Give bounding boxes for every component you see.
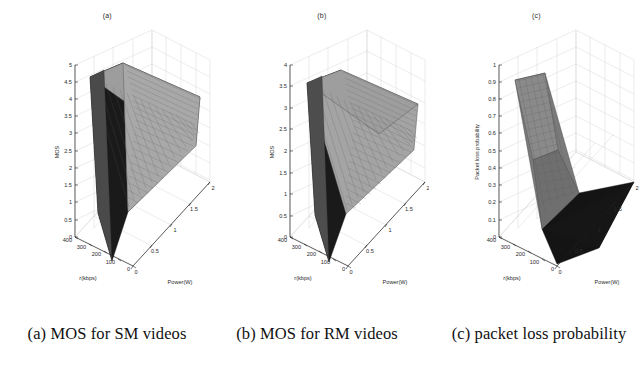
svg-text:400: 400 <box>63 237 72 243</box>
svg-text:0.7: 0.7 <box>488 113 496 119</box>
svg-text:1: 1 <box>493 62 496 68</box>
panel-b-xlabel: r(kbps) <box>294 275 311 281</box>
caption-b: (b) MOS for RM videos <box>212 300 422 344</box>
svg-text:0.8: 0.8 <box>488 96 496 102</box>
svg-text:0.3: 0.3 <box>488 182 496 188</box>
panel-b-zlabel: MOS <box>269 145 275 158</box>
panel-b-x-ticks: 400 300 200 100 0 r(kbps) <box>277 237 350 281</box>
svg-text:2: 2 <box>636 185 639 191</box>
svg-text:1: 1 <box>69 199 72 205</box>
svg-text:1.5: 1.5 <box>64 182 72 188</box>
svg-text:1.5: 1.5 <box>190 206 198 212</box>
panel-a-z-ticks: 5 4.5 4 3.5 3 2.5 2 1.5 1 0.5 0 MOS <box>54 62 78 240</box>
svg-text:3: 3 <box>283 105 286 111</box>
svg-text:1: 1 <box>388 227 391 233</box>
svg-text:0.5: 0.5 <box>151 248 159 254</box>
panel-b-ylabel: Power(W) <box>382 279 407 285</box>
panel-b: (b) <box>215 0 430 292</box>
figure-container: (a) <box>0 0 644 383</box>
panel-a-surface <box>90 63 201 261</box>
svg-text:200: 200 <box>92 251 101 257</box>
svg-text:1: 1 <box>283 191 286 197</box>
svg-text:4: 4 <box>69 96 72 102</box>
svg-text:5: 5 <box>69 62 72 68</box>
svg-text:2.5: 2.5 <box>279 126 287 132</box>
svg-text:4: 4 <box>283 62 286 68</box>
panel-a-x-ticks: 400 300 200 100 0 r(kbps) <box>63 237 136 281</box>
svg-text:100: 100 <box>106 259 115 265</box>
svg-text:0.4: 0.4 <box>488 165 496 171</box>
svg-text:1: 1 <box>598 227 601 233</box>
svg-text:0.5: 0.5 <box>279 213 287 219</box>
svg-text:0: 0 <box>559 269 562 275</box>
svg-text:0: 0 <box>551 266 554 272</box>
panels-row: (a) <box>0 0 644 292</box>
svg-text:0.5: 0.5 <box>64 217 72 223</box>
panel-c-ylabel: Power(W) <box>595 279 620 285</box>
panel-b-plot: 4 3.5 3 2.5 2 1.5 1 0.5 0 MOS <box>215 0 430 292</box>
svg-text:200: 200 <box>306 251 315 257</box>
svg-text:300: 300 <box>291 244 300 250</box>
panel-c-zlabel: Packet loss probability <box>474 124 480 180</box>
svg-text:3.5: 3.5 <box>64 113 72 119</box>
panel-a-y-ticks: 0 0.5 1 1.5 2 Power(W) <box>131 182 215 285</box>
svg-text:0.6: 0.6 <box>488 130 496 136</box>
svg-text:0.9: 0.9 <box>488 79 496 85</box>
panel-a-zlabel: MOS <box>54 145 60 158</box>
svg-text:100: 100 <box>320 259 329 265</box>
svg-text:2.5: 2.5 <box>64 148 72 154</box>
caption-c: (c) packet loss probability <box>422 300 644 344</box>
svg-text:400: 400 <box>277 237 286 243</box>
svg-text:0: 0 <box>134 269 137 275</box>
svg-text:2: 2 <box>69 165 72 171</box>
svg-text:3.5: 3.5 <box>279 83 287 89</box>
svg-text:1.5: 1.5 <box>279 170 287 176</box>
svg-text:300: 300 <box>77 244 86 250</box>
svg-text:3: 3 <box>69 130 72 136</box>
panel-a: (a) <box>0 0 215 292</box>
svg-text:0.5: 0.5 <box>366 248 374 254</box>
svg-text:0: 0 <box>341 266 344 272</box>
panel-b-z-ticks: 4 3.5 3 2.5 2 1.5 1 0.5 0 MOS <box>269 62 293 240</box>
svg-text:1: 1 <box>173 227 176 233</box>
svg-text:100: 100 <box>530 259 539 265</box>
svg-text:4.5: 4.5 <box>64 79 72 85</box>
svg-text:1.5: 1.5 <box>614 206 622 212</box>
svg-text:300: 300 <box>501 244 510 250</box>
panel-a-plot: 5 4.5 4 3.5 3 2.5 2 1.5 1 0.5 0 MOS <box>0 0 215 292</box>
svg-text:0.5: 0.5 <box>488 148 496 154</box>
svg-text:0.1: 0.1 <box>488 217 496 223</box>
caption-a: (a) MOS for SM videos <box>0 300 212 344</box>
panel-b-surface <box>307 70 419 262</box>
svg-text:0.2: 0.2 <box>488 199 496 205</box>
svg-text:0: 0 <box>127 266 130 272</box>
svg-text:2: 2 <box>283 148 286 154</box>
svg-text:200: 200 <box>516 251 525 257</box>
panel-c: (c) <box>429 0 644 292</box>
panel-c-z-ticks: 1 0.9 0.8 0.7 0.6 0.5 0.4 0.3 0.2 0.1 0 … <box>474 62 502 240</box>
captions-row: (a) MOS for SM videos (b) MOS for RM vid… <box>0 300 644 360</box>
svg-text:1.5: 1.5 <box>405 206 413 212</box>
panel-a-xlabel: r(kbps) <box>79 275 96 281</box>
panel-c-xlabel: r(kbps) <box>504 275 521 281</box>
panel-c-plot: 1 0.9 0.8 0.7 0.6 0.5 0.4 0.3 0.2 0.1 0 … <box>429 0 644 292</box>
svg-text:0.5: 0.5 <box>575 248 583 254</box>
panel-a-ylabel: Power(W) <box>168 279 193 285</box>
svg-text:400: 400 <box>487 237 496 243</box>
svg-text:0: 0 <box>349 269 352 275</box>
